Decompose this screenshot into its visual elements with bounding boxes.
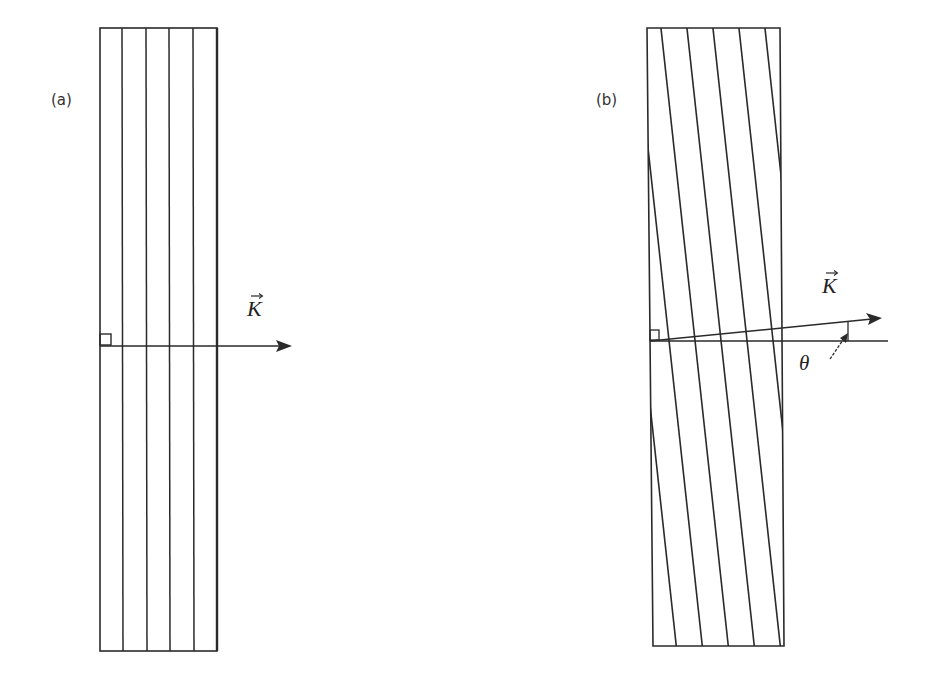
fringes-a [122,28,194,651]
theta-label: θ [799,351,809,375]
right-angle-marker-a [100,334,111,345]
right-angle-marker-b [650,330,659,340]
k-vector-label-b: K [821,271,838,299]
svg-text:K: K [246,296,263,321]
fringe-line [122,28,123,651]
panel-a: (a) K [51,28,292,651]
slab-outline-a [100,28,217,651]
panel-a-label: (a) [51,91,72,109]
svg-text:K: K [821,273,838,298]
k-vector-label-a: K [246,294,263,322]
fringe-line [193,28,194,651]
fringe-line [725,0,810,680]
panel-b-label: (b) [596,91,617,109]
panel-b: (b) θ [569,0,888,680]
fringe-line [699,0,784,680]
fringe-line [751,0,836,680]
fringe-line [169,28,170,651]
figure: (a) K (b) [0,0,927,680]
fringe-line [673,0,758,680]
fringe-line [146,28,147,651]
slab-outline-b [647,28,784,646]
k-vector-line-b [650,319,872,341]
